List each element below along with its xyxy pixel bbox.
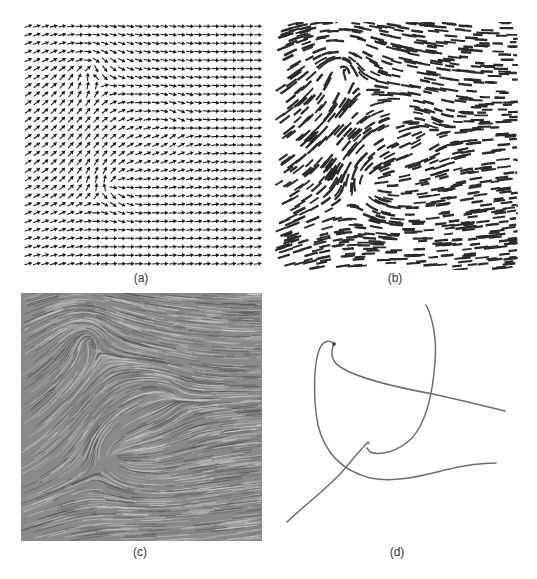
panel-c-lic-texture bbox=[21, 293, 262, 541]
caption-b: (b) bbox=[375, 271, 415, 285]
seed-point-2 bbox=[366, 441, 370, 445]
streamline-3 bbox=[332, 344, 505, 411]
caption-c: (c) bbox=[120, 545, 160, 559]
panel-d-streamlines bbox=[268, 285, 537, 545]
streamline-plot bbox=[268, 285, 537, 545]
streamline-2 bbox=[315, 341, 496, 479]
caption-d: (d) bbox=[377, 545, 417, 559]
streamlet-field bbox=[275, 22, 518, 270]
arrow-glyph-field bbox=[24, 22, 262, 268]
panel-b-streamlets bbox=[275, 22, 518, 270]
panel-a-arrow-plot bbox=[24, 22, 262, 268]
streamline-1 bbox=[367, 305, 436, 453]
streamline-4 bbox=[287, 442, 368, 522]
lic-texture bbox=[21, 293, 262, 541]
caption-a: (a) bbox=[121, 271, 161, 285]
seed-point-1 bbox=[332, 342, 336, 346]
